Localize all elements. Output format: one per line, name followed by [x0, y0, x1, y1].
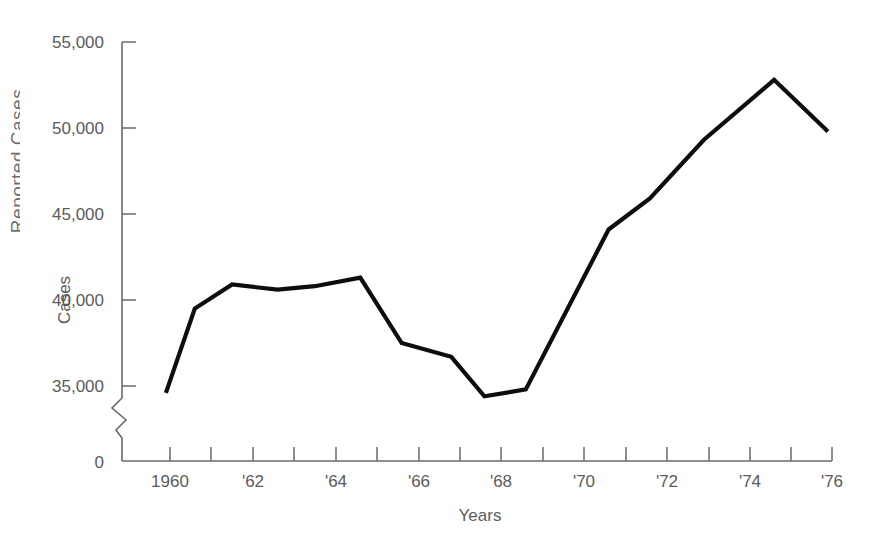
y-tick-label-45000: 45,000 [52, 205, 104, 224]
x-axis-title: Years [459, 506, 502, 525]
data-series-line-cases [166, 80, 828, 397]
chart-svg: 55,000 50,000 45,000 40,000 35,000 0 [0, 0, 881, 542]
x-tick-label-1974: '74 [739, 472, 761, 491]
y-tick-label-zero: 0 [95, 453, 104, 472]
y-tick-label-35000: 35,000 [52, 377, 104, 396]
y-tick-label-50000: 50,000 [52, 119, 104, 138]
x-tick-label-1964: '64 [325, 472, 347, 491]
x-tick-label-1972: '72 [656, 472, 678, 491]
x-tick-label-1966: '66 [408, 472, 430, 491]
y-axis-title: Cases [55, 276, 74, 324]
chart-figure: Reported Cases 55,000 50,000 45,000 40,0… [0, 0, 881, 542]
y-tick-label-55000: 55,000 [52, 33, 104, 52]
x-tick-label-1960: 1960 [151, 472, 189, 491]
x-tick-label-1970: '70 [573, 472, 595, 491]
x-tick-label-1976: '76 [821, 472, 843, 491]
x-tick-label-1962: '62 [242, 472, 264, 491]
x-tick-label-1968: '68 [490, 472, 512, 491]
y-axis-break-zigzag [112, 386, 126, 461]
